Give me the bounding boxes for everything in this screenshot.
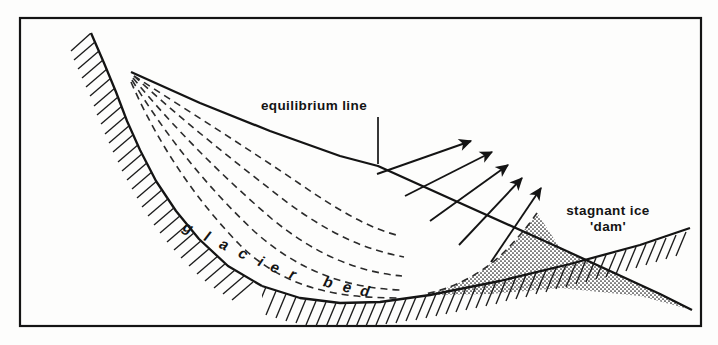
stagnant-ice-label-line2: 'dam' — [590, 219, 626, 234]
glacier-cross-section-diagram: equilibrium line stagnant ice 'dam' glac… — [0, 0, 718, 345]
figure-root: equilibrium line stagnant ice 'dam' glac… — [0, 0, 718, 345]
equilibrium-line-label: equilibrium line — [261, 98, 367, 113]
stagnant-ice-label-line1: stagnant ice — [566, 203, 650, 218]
